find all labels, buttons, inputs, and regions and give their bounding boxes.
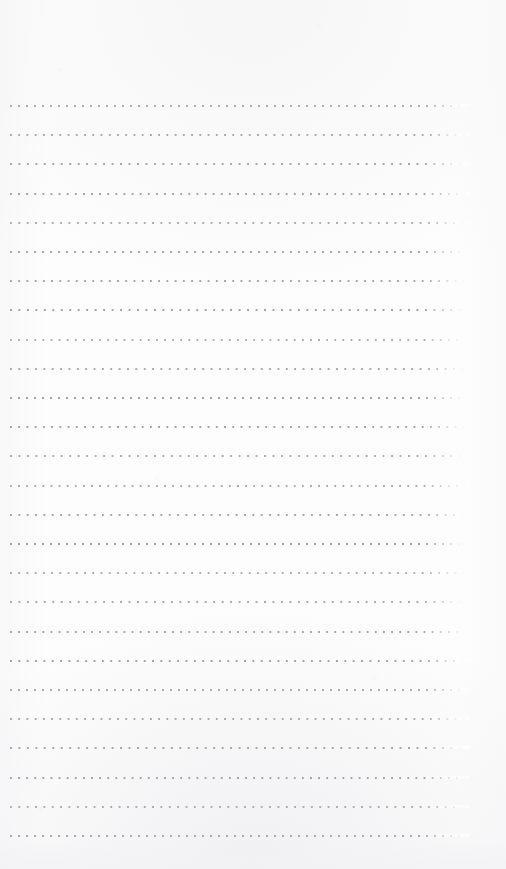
rule-line-fade <box>424 688 470 691</box>
rule-line-dots <box>10 133 467 136</box>
rule-line-fade <box>424 338 470 341</box>
rule-line <box>10 192 470 195</box>
rule-line-dots <box>10 454 470 457</box>
rule-line-dots <box>10 367 470 370</box>
rule-line-dots <box>10 688 464 691</box>
rule-line <box>10 279 470 282</box>
rule-line-dots <box>10 308 467 311</box>
rule-line-fade <box>424 746 470 749</box>
rule-line <box>10 571 470 574</box>
rule-line <box>10 776 470 779</box>
rule-line <box>10 542 470 545</box>
rule-line-dots <box>10 542 470 545</box>
rule-line <box>10 834 470 837</box>
rule-line <box>10 746 470 749</box>
rule-line-dots <box>10 805 470 808</box>
rule-line-fade <box>424 513 470 516</box>
rule-line-dots <box>10 571 467 574</box>
rule-line-fade <box>424 250 470 253</box>
rule-line-fade <box>424 308 470 311</box>
writing-area <box>10 0 470 869</box>
rule-line-dots <box>10 746 467 749</box>
rule-line-fade <box>424 221 470 224</box>
rule-line <box>10 659 470 662</box>
rule-line-dots <box>10 717 470 720</box>
rule-line-dots <box>10 513 464 516</box>
rule-line-fade <box>424 367 470 370</box>
rule-line-fade <box>424 279 470 282</box>
notepaper-page <box>0 0 506 869</box>
rule-line-fade <box>424 571 470 574</box>
rule-line-fade <box>424 542 470 545</box>
rule-line-dots <box>10 104 470 107</box>
rule-line-fade <box>424 192 470 195</box>
rule-line <box>10 308 470 311</box>
rule-line-dots <box>10 484 467 487</box>
rule-line-fade <box>424 659 470 662</box>
rule-line <box>10 425 470 428</box>
rule-line <box>10 600 470 603</box>
rule-line <box>10 454 470 457</box>
rule-line-dots <box>10 425 464 428</box>
rule-line <box>10 805 470 808</box>
rule-line-dots <box>10 221 467 224</box>
rule-line-dots <box>10 338 464 341</box>
rule-line <box>10 133 470 136</box>
rule-line-dots <box>10 600 464 603</box>
rule-line-dots <box>10 192 470 195</box>
rule-line <box>10 250 470 253</box>
rule-line-fade <box>424 104 470 107</box>
rule-line-fade <box>424 834 470 837</box>
rule-line <box>10 367 470 370</box>
rule-line <box>10 688 470 691</box>
rule-line-fade <box>424 776 470 779</box>
rule-line-fade <box>424 133 470 136</box>
rule-line-fade <box>424 805 470 808</box>
rule-line-dots <box>10 250 464 253</box>
rule-line-dots <box>10 834 467 837</box>
rule-line-fade <box>424 454 470 457</box>
rule-line <box>10 630 470 633</box>
rule-line <box>10 513 470 516</box>
rule-line <box>10 717 470 720</box>
rule-line <box>10 104 470 107</box>
rule-line-fade <box>424 484 470 487</box>
rule-line <box>10 162 470 165</box>
rule-line <box>10 396 470 399</box>
rule-line-fade <box>424 425 470 428</box>
rule-line <box>10 221 470 224</box>
rule-line-fade <box>424 630 470 633</box>
rule-line <box>10 338 470 341</box>
rule-line-fade <box>424 717 470 720</box>
rule-line-dots <box>10 630 470 633</box>
rule-line <box>10 484 470 487</box>
rule-line-dots <box>10 659 467 662</box>
rule-line-fade <box>424 600 470 603</box>
rule-line-fade <box>424 162 470 165</box>
rule-line-fade <box>424 396 470 399</box>
rule-line-dots <box>10 396 467 399</box>
rule-line-dots <box>10 776 464 779</box>
rule-line-dots <box>10 162 464 165</box>
rule-line-dots <box>10 279 470 282</box>
